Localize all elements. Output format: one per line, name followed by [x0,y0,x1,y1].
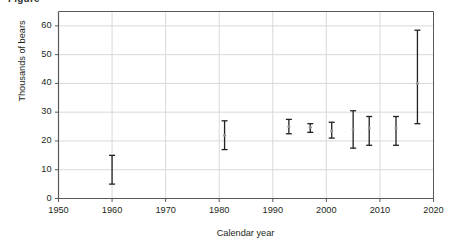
data-point-center-dot [309,126,312,129]
data-point-errorbar [414,30,420,124]
x-tick-label: 1950 [39,205,79,215]
x-tick-label: 1970 [146,205,186,215]
data-point-center-dot [223,134,226,137]
x-tick-label: 1990 [253,205,293,215]
y-tick-label: 10 [26,164,52,174]
x-tick-label: 2010 [360,205,400,215]
data-point-errorbar [329,122,335,138]
x-tick-label: 1960 [92,205,132,215]
data-point-errorbar [350,111,356,148]
y-tick-label: 40 [26,77,52,87]
x-tick-label: 2020 [414,205,454,215]
data-point-center-dot [395,127,398,130]
data-point-center-dot [352,128,355,131]
x-tick-label: 1980 [199,205,239,215]
y-tick-label: 30 [26,106,52,116]
y-tick-label: 20 [26,135,52,145]
data-point-center-dot [368,127,371,130]
y-tick-label: 0 [26,193,52,203]
data-point-center-dot [287,125,290,128]
data-point-errorbar [222,121,228,150]
y-tick-label: 60 [26,20,52,30]
x-axis-title: Calendar year [58,228,433,238]
data-point-errorbar [286,119,292,133]
data-point-center-dot [330,129,333,132]
data-point-center-dot [416,82,419,85]
y-tick-label: 50 [26,49,52,59]
x-tick-label: 2000 [306,205,346,215]
data-point-errorbar [307,124,313,133]
chart-figure: Figure Thousands of bears Calendar year … [0,0,463,250]
